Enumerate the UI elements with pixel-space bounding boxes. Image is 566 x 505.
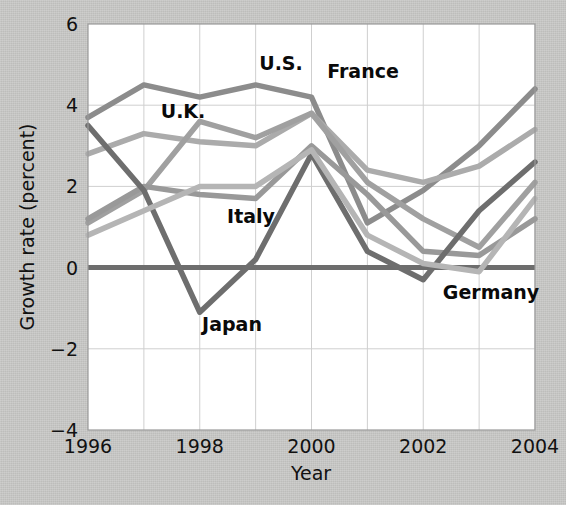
y-tick-label: 0 xyxy=(66,257,78,279)
series-label-italy: Italy xyxy=(227,205,275,227)
growth-rate-line-chart: −4−20246 19961998200020022004 U.S.France… xyxy=(0,0,566,505)
y-tick-label: 6 xyxy=(66,13,78,35)
y-tick-label: −2 xyxy=(50,338,78,360)
x-tick-label: 2000 xyxy=(287,435,335,457)
figure-background: −4−20246 19961998200020022004 U.S.France… xyxy=(0,0,566,505)
series-label-japan: Japan xyxy=(200,313,262,335)
series-label-us: U.S. xyxy=(259,52,303,74)
y-tick-label: 4 xyxy=(66,94,78,116)
x-axis-tick-labels: 19961998200020022004 xyxy=(64,435,559,457)
series-label-uk: U.K. xyxy=(161,100,206,122)
y-axis-title: Growth rate (percent) xyxy=(16,123,38,330)
x-tick-label: 1996 xyxy=(64,435,112,457)
x-tick-label: 1998 xyxy=(176,435,224,457)
y-tick-label: 2 xyxy=(66,175,78,197)
y-axis-tick-labels: −4−20246 xyxy=(50,13,78,441)
x-tick-label: 2002 xyxy=(399,435,447,457)
x-tick-label: 2004 xyxy=(511,435,559,457)
series-label-france: France xyxy=(327,60,399,82)
series-label-germany: Germany xyxy=(443,281,540,303)
x-axis-title: Year xyxy=(290,462,331,484)
